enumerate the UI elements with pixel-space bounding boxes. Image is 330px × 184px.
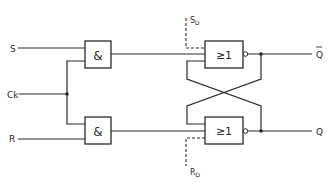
label-r: R — [9, 134, 15, 144]
wire-ck-distribution — [67, 61, 85, 124]
and-bottom-symbol: & — [93, 125, 102, 139]
inversion-bubble-bottom — [243, 129, 248, 134]
and-gate-bottom: & — [85, 117, 111, 144]
and-gate-top: & — [85, 41, 111, 68]
junction-ck — [65, 92, 69, 96]
logic-diagram: S Ck R & & SD RD ≥1 ≥1 Q Q — [0, 0, 330, 184]
label-rd: RD — [190, 168, 201, 178]
nor-bottom-symbol: ≥1 — [216, 125, 232, 138]
label-ck: Ck — [7, 90, 19, 100]
nor-gate-top: ≥1 — [205, 41, 248, 68]
label-sd: SD — [190, 16, 200, 26]
wire-rd-dashed — [186, 138, 205, 166]
nor-gate-bottom: ≥1 — [205, 117, 248, 144]
label-q: Q — [316, 127, 323, 137]
nor-top-symbol: ≥1 — [216, 49, 232, 62]
label-q-bar: Q — [316, 50, 323, 60]
inversion-bubble-top — [243, 52, 248, 57]
label-s: S — [10, 44, 16, 54]
and-top-symbol: & — [93, 49, 102, 63]
